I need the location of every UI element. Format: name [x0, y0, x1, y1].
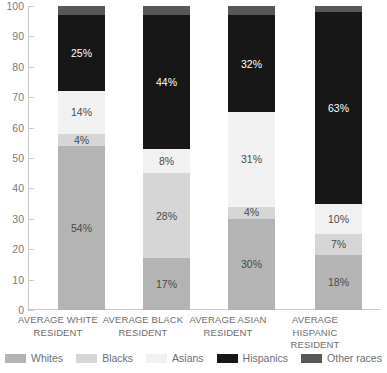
bar-segment-whites[interactable]: 18% [315, 255, 362, 310]
bar-segment-value-label: 32% [241, 59, 262, 70]
category-label-line: RESIDENT [97, 327, 189, 340]
legend-label: Hispanics [243, 353, 289, 364]
category-label-line: RESIDENT [12, 327, 104, 340]
category-label-line: AVERAGE BLACK [97, 314, 189, 327]
bar-segment-blacks[interactable]: 7% [315, 234, 362, 255]
legend-label: Asians [172, 353, 204, 364]
y-axis-tick-label: 60 [2, 123, 24, 134]
legend-swatch-icon [301, 354, 322, 363]
y-axis-tick-mark [28, 128, 34, 129]
y-axis-tick-label: 100 [2, 1, 24, 12]
chart-legend: WhitesBlacksAsiansHispanicsOther races [0, 350, 387, 366]
bar-segment-value-label: 54% [71, 223, 92, 234]
y-axis-tick-mark [28, 6, 34, 7]
y-axis-tick-mark [28, 249, 34, 250]
bar-3[interactable]: 30%4%31%32% [228, 6, 275, 310]
bar-segment-value-label: 31% [241, 154, 262, 165]
bar-segment-other-races[interactable] [58, 6, 105, 15]
legend-label: Blacks [102, 353, 133, 364]
bar-segment-asians[interactable]: 10% [315, 204, 362, 234]
bar-segment-value-label: 14% [71, 107, 92, 118]
bar-segment-other-races[interactable] [228, 6, 275, 15]
bar-segment-blacks[interactable]: 28% [143, 173, 190, 258]
bar-4[interactable]: 18%7%10%63% [315, 6, 362, 310]
category-label-line: AVERAGE ASIAN [182, 314, 274, 327]
bar-segment-value-label: 4% [74, 135, 89, 146]
y-axis-tick-mark [28, 36, 34, 37]
legend-item-asians[interactable]: Asians [146, 353, 204, 364]
x-axis-category-labels: AVERAGE WHITERESIDENTAVERAGE BLACKRESIDE… [28, 314, 380, 344]
legend-item-blacks[interactable]: Blacks [76, 353, 133, 364]
y-axis-tick-mark [28, 97, 34, 98]
legend-label: Whites [31, 353, 63, 364]
bar-segment-other-races[interactable] [143, 6, 190, 15]
bar-segment-asians[interactable]: 8% [143, 149, 190, 173]
bar-segment-whites[interactable]: 17% [143, 258, 190, 310]
category-label-line: AVERAGE WHITE [12, 314, 104, 327]
y-axis-tick-mark [28, 219, 34, 220]
bar-segment-value-label: 30% [241, 259, 262, 270]
bar-segment-value-label: 18% [328, 277, 349, 288]
legend-item-hispanics[interactable]: Hispanics [217, 353, 289, 364]
bar-segment-blacks[interactable]: 4% [58, 134, 105, 146]
y-axis-labels: 0102030405060708090100 [0, 6, 24, 310]
legend-swatch-icon [5, 354, 26, 363]
bar-segment-blacks[interactable]: 4% [228, 207, 275, 219]
bar-segment-hispanics[interactable]: 25% [58, 15, 105, 91]
bar-segment-value-label: 4% [244, 207, 259, 218]
y-axis-tick-label: 70 [2, 92, 24, 103]
bar-segment-hispanics[interactable]: 63% [315, 12, 362, 204]
plot-area: 54%4%14%25%17%28%8%44%30%4%31%32%18%7%10… [28, 6, 380, 310]
y-axis-tick-label: 90 [2, 31, 24, 42]
x-axis-category-label: AVERAGE BLACKRESIDENT [97, 314, 189, 339]
legend-label: Other races [327, 353, 382, 364]
y-axis-tick-mark [28, 158, 34, 159]
bar-segment-hispanics[interactable]: 44% [143, 15, 190, 149]
bar-segment-asians[interactable]: 31% [228, 112, 275, 206]
bar-segment-value-label: 44% [156, 77, 177, 88]
bar-segment-value-label: 25% [71, 48, 92, 59]
bar-segment-value-label: 17% [156, 279, 177, 290]
y-axis-tick-mark [28, 188, 34, 189]
category-label-line: AVERAGE HISPANIC [269, 314, 361, 339]
x-axis-category-label: AVERAGE WHITERESIDENT [12, 314, 104, 339]
bar-segment-value-label: 8% [159, 156, 174, 167]
y-axis-tick-label: 40 [2, 183, 24, 194]
legend-swatch-icon [146, 354, 167, 363]
y-axis-tick-mark [28, 67, 34, 68]
x-axis-category-label: AVERAGE ASIANRESIDENT [182, 314, 274, 339]
bar-segment-value-label: 7% [331, 239, 346, 250]
y-axis-tick-label: 20 [2, 244, 24, 255]
bar-segment-whites[interactable]: 30% [228, 219, 275, 310]
legend-swatch-icon [217, 354, 238, 363]
bar-segment-whites[interactable]: 54% [58, 146, 105, 310]
y-axis-tick-mark [28, 280, 34, 281]
bar-segment-value-label: 63% [328, 103, 349, 114]
legend-item-other-races[interactable]: Other races [301, 353, 382, 364]
bar-1[interactable]: 54%4%14%25% [58, 6, 105, 310]
bar-segment-hispanics[interactable]: 32% [228, 15, 275, 112]
y-axis-tick-label: 30 [2, 214, 24, 225]
bar-segment-asians[interactable]: 14% [58, 91, 105, 134]
category-label-line: RESIDENT [182, 327, 274, 340]
y-axis-tick-label: 80 [2, 62, 24, 73]
legend-swatch-icon [76, 354, 97, 363]
legend-item-whites[interactable]: Whites [5, 353, 63, 364]
y-axis-tick-label: 50 [2, 153, 24, 164]
x-axis-category-label: AVERAGE HISPANICRESIDENT [269, 314, 361, 352]
y-axis-tick-mark [28, 310, 34, 311]
stacked-bar-chart: 0102030405060708090100 54%4%14%25%17%28%… [0, 0, 387, 373]
bar-2[interactable]: 17%28%8%44% [143, 6, 190, 310]
bar-segment-value-label: 10% [328, 214, 349, 225]
y-axis-tick-label: 10 [2, 275, 24, 286]
bar-segment-value-label: 28% [156, 211, 177, 222]
